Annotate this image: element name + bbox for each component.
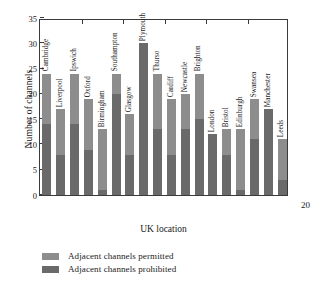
bar-segment-prohibited [84,150,93,196]
legend-item[interactable]: Adjacent channels permitted [42,250,176,263]
bar-segment-prohibited [264,109,273,195]
bar-segment-prohibited [98,190,107,195]
y-axis-tick-label: 30 [15,40,37,49]
bar-segment-permitted [98,129,107,190]
bar-segment-prohibited [181,129,190,195]
bar-segment-permitted [222,129,231,154]
bar-segment-prohibited [195,119,204,195]
plot-area: CambridgeLiverpoolIpswichOxfordBirmingha… [39,19,288,196]
bar[interactable] [222,129,231,195]
bar-segment-permitted [181,94,190,129]
bar-category-label: Plymouth [140,13,147,41]
bar[interactable] [208,134,217,195]
bar[interactable] [236,129,245,195]
bar-category-label: Swansea [251,71,258,97]
bar-category-label: London [209,110,216,133]
y-axis-tick-label: 20 [15,90,37,99]
bar-segment-permitted [167,99,176,155]
chart-legend: Adjacent channels permittedAdjacent chan… [42,250,176,276]
bar-segment-permitted [42,74,51,125]
y-axis-tick [40,17,44,18]
y-axis-tick-label: 35 [15,15,37,24]
y-axis-tick-label: 5 [15,166,37,175]
legend-label: Adjacent channels prohibited [68,265,176,274]
bar-category-label: Bristol [223,107,230,127]
bar-category-label: Leeds [278,120,285,137]
bar-segment-prohibited [208,134,217,195]
bar[interactable] [278,139,287,195]
bar-segment-permitted [250,99,259,139]
bar-category-label: Thurso [154,51,161,72]
bar-segment-permitted [278,139,287,179]
bar[interactable] [167,99,176,195]
bar-category-label: Ipswich [71,49,78,72]
bar[interactable] [70,74,79,195]
bar[interactable] [153,74,162,195]
bar-category-label: Oxford [85,76,92,97]
bar-segment-permitted [195,74,204,120]
y-axis-tick-label: 25 [15,65,37,74]
bar-segment-prohibited [236,190,245,195]
bar-segment-permitted [153,74,162,130]
bar-segment-permitted [84,99,93,150]
bar-segment-prohibited [139,43,148,195]
y-axis-title: Number of channels [24,34,34,184]
y-axis-tick-label: 10 [15,141,37,150]
bar-category-label: Brighton [195,46,202,72]
y-axis-tick-label: 0 [15,192,37,201]
bar-category-label: Manchester [264,73,271,107]
bar-category-label: Liverpool [57,78,64,107]
bar-segment-prohibited [278,180,287,195]
legend-label: Adjacent channels permitted [68,252,174,261]
bar[interactable] [250,99,259,195]
x-axis-title: UK location [39,224,288,234]
y-axis-tick-label: 15 [15,116,37,125]
bar-category-label: Cambridge [43,39,50,71]
bar[interactable] [125,114,134,195]
bar-segment-prohibited [70,124,79,195]
bar-segment-prohibited [250,139,259,195]
legend-item[interactable]: Adjacent channels prohibited [42,263,176,276]
bar-category-label: Southampton [112,33,119,72]
bar-category-label: Glasgow [126,86,133,112]
bar-segment-permitted [112,74,121,94]
bar[interactable] [42,74,51,195]
bar[interactable] [98,129,107,195]
bar-segment-prohibited [153,129,162,195]
bar[interactable] [264,109,273,195]
bar-segment-prohibited [56,155,65,195]
bar-series-group: CambridgeLiverpoolIpswichOxfordBirmingha… [40,20,287,195]
bar-segment-prohibited [42,124,51,195]
page-number: 20 [301,200,310,210]
bar-segment-prohibited [222,155,231,195]
bar-segment-prohibited [167,155,176,195]
bar-category-label: Birmingham [98,90,105,127]
chart-figure: Number of channels 05101520253035 Cambri… [0,0,318,286]
bar[interactable] [84,99,93,195]
bar-segment-prohibited [125,155,134,195]
bar-category-label: Edinburgh [237,97,244,128]
bar[interactable] [195,74,204,195]
bar-segment-prohibited [112,94,121,195]
bar-category-label: Newcastle [181,61,188,91]
bar[interactable] [181,94,190,195]
bar[interactable] [112,74,121,195]
bar[interactable] [139,43,148,195]
bar-segment-permitted [56,109,65,155]
legend-swatch [42,266,59,273]
bar-segment-permitted [236,129,245,190]
bar-category-label: Cardiff [168,76,175,97]
legend-swatch [42,253,59,260]
bar-segment-permitted [125,114,134,154]
bar-segment-permitted [70,74,79,125]
bar[interactable] [56,109,65,195]
